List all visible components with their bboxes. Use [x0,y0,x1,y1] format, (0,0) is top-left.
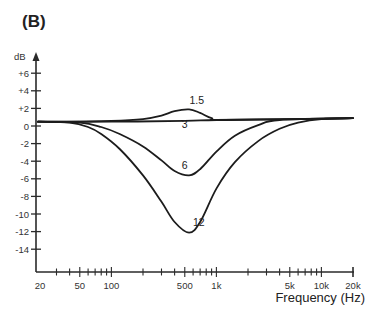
x-tick-label: 50 [74,280,85,291]
y-tick-label: -14 [15,244,29,255]
y-tick-label: -10 [15,209,29,220]
curve-label-1-5: 1.5 [189,94,204,106]
y-tick-label: -8 [21,191,29,202]
x-tick-label: 1k [211,280,221,291]
x-tick-label: 100 [103,280,119,291]
axes: dB+6+4+20-2-4-6-8-10-12-1420501005001k5k… [14,51,365,305]
y-axis-arrow-icon [33,52,40,61]
curve-label-3: 3 [182,118,188,130]
x-tick-label: 20 [35,280,46,291]
y-tick-label: +4 [18,85,29,96]
curve-label-12: 12 [193,216,205,228]
curves [38,109,353,232]
y-tick-label: +6 [18,68,29,79]
x-axis-title: Frequency (Hz) [275,290,365,305]
y-tick-label: -4 [21,156,29,167]
curve-12 [38,118,353,232]
y-axis-title: dB [14,51,26,62]
y-tick-label: 0 [24,121,29,132]
y-tick-label: +2 [18,103,29,114]
curve-label-6: 6 [182,159,188,171]
y-tick-label: -6 [21,173,29,184]
x-tick-label: 500 [177,280,193,291]
frequency-response-chart: dB+6+4+20-2-4-6-8-10-12-1420501005001k5k… [0,0,382,322]
y-tick-label: -12 [15,226,29,237]
y-tick-label: -2 [21,138,29,149]
